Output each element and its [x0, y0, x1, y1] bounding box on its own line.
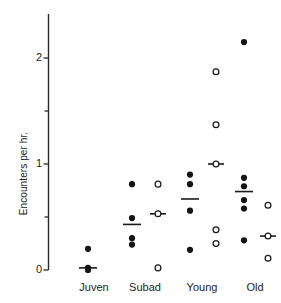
y-tick-label-0: 0 [20, 264, 42, 275]
data-point-juven-filled-2 [85, 267, 91, 273]
data-point-old-filled-5 [241, 237, 247, 243]
data-point-young-filled-1 [187, 181, 193, 187]
data-point-subad-open-2 [155, 265, 161, 271]
y-axis-title: Encounters per hr. [18, 79, 29, 269]
data-point-subad-filled-3 [129, 241, 135, 247]
data-point-old-open-2 [265, 255, 271, 261]
data-point-old-filled-3 [241, 197, 247, 203]
data-point-old-filled-4 [241, 205, 247, 211]
data-point-old-filled-0 [241, 39, 247, 45]
data-point-subad-filled-2 [129, 235, 135, 241]
data-point-old-filled-2 [241, 183, 247, 189]
plot-canvas [0, 0, 281, 303]
data-marks-group [79, 39, 276, 273]
data-point-old-open-0 [265, 202, 271, 208]
scatter-plot-figure: Encounters per hr. 0 1 2 Juven Subad You… [0, 0, 281, 303]
x-tick-label-young: Young [178, 282, 226, 293]
data-point-young-open-0 [213, 69, 219, 75]
data-point-juven-filled-0 [85, 246, 91, 252]
data-point-subad-open-1 [155, 211, 161, 217]
data-point-subad-filled-0 [129, 181, 135, 187]
data-point-young-open-2 [213, 161, 219, 167]
data-point-subad-open-0 [155, 181, 161, 187]
data-point-young-open-3 [213, 227, 219, 233]
data-point-young-open-1 [213, 122, 219, 128]
data-point-young-filled-3 [187, 247, 193, 253]
y-axis-ticks [44, 58, 49, 270]
data-point-old-filled-1 [241, 175, 247, 181]
data-point-young-open-4 [213, 241, 219, 247]
y-tick-label-2: 2 [20, 52, 42, 63]
data-point-young-filled-0 [187, 172, 193, 178]
y-tick-label-1: 1 [20, 158, 42, 169]
x-tick-label-juven: Juven [72, 282, 116, 293]
data-point-old-open-1 [265, 233, 271, 239]
x-tick-label-old: Old [238, 282, 272, 293]
data-point-subad-filled-1 [129, 215, 135, 221]
data-point-young-filled-2 [187, 208, 193, 214]
x-tick-label-subad: Subad [122, 282, 168, 293]
